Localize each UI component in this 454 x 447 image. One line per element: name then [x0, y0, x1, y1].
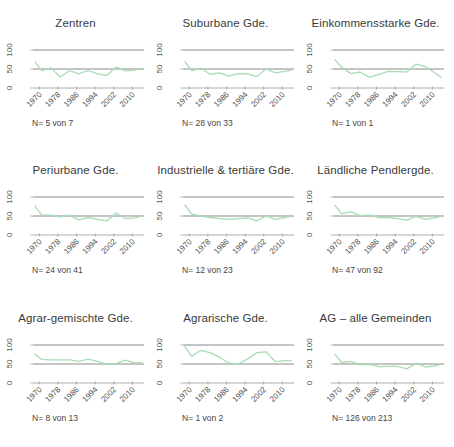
x-tick-label: 2010 [268, 385, 287, 404]
y-tick-label: 50 [5, 211, 14, 220]
x-tick-label: 1978 [193, 237, 212, 256]
x-tick-label: 1986 [212, 90, 231, 109]
x-tick-label: 2010 [118, 385, 137, 404]
x-tick-label: 2002 [399, 385, 418, 404]
x-tick-label: 2002 [99, 237, 118, 256]
x-tick-label: 1994 [81, 385, 100, 404]
line-plot: 197019781986199420022010050100 [300, 0, 451, 118]
chart-panel: Zentren197019781986199420022010050100N= … [0, 0, 151, 149]
y-tick-label: 0 [155, 380, 164, 385]
x-tick-label: 2002 [399, 237, 418, 256]
chart-panel: Industrielle & tertiäre Gde.197019781986… [150, 147, 301, 296]
y-tick-label: 0 [5, 232, 14, 237]
x-tick-label: 1978 [43, 385, 62, 404]
data-line [185, 346, 292, 364]
x-tick-label: 1978 [193, 385, 212, 404]
line-plot: 197019781986199420022010050100 [300, 295, 451, 413]
data-line [335, 354, 442, 369]
x-tick-label: 1994 [81, 237, 100, 256]
y-tick-label: 50 [5, 359, 14, 368]
chart-panel: AG – alle Gemeinden197019781986199420022… [300, 295, 451, 444]
x-tick-label: 1986 [62, 237, 81, 256]
line-plot: 197019781986199420022010050100 [150, 0, 301, 118]
x-tick-label: 1978 [343, 385, 362, 404]
y-tick-label: 50 [155, 64, 164, 73]
y-tick-label: 50 [305, 64, 314, 73]
x-tick-label: 2002 [99, 90, 118, 109]
x-tick-label: 1994 [381, 385, 400, 404]
x-tick-label: 1986 [362, 385, 381, 404]
x-tick-label: 1970 [25, 90, 44, 109]
data-line [185, 205, 292, 221]
y-tick-label: 0 [5, 85, 14, 90]
y-tick-label: 100 [305, 338, 314, 352]
x-tick-label: 2002 [249, 237, 268, 256]
x-tick-label: 1970 [325, 237, 344, 256]
x-tick-label: 1994 [381, 90, 400, 109]
y-tick-label: 0 [5, 380, 14, 385]
chart-panel: Suburbane Gde.19701978198619942002201005… [150, 0, 301, 149]
x-tick-label: 2010 [268, 237, 287, 256]
line-plot: 197019781986199420022010050100 [150, 147, 301, 265]
data-line [335, 205, 442, 220]
y-tick-label: 50 [305, 359, 314, 368]
line-plot: 197019781986199420022010050100 [300, 147, 451, 265]
x-tick-label: 2002 [99, 385, 118, 404]
x-tick-label: 1994 [381, 237, 400, 256]
y-tick-label: 0 [305, 380, 314, 385]
x-tick-label: 1970 [25, 385, 44, 404]
x-tick-label: 1978 [43, 237, 62, 256]
y-tick-label: 0 [155, 85, 164, 90]
x-tick-label: 1986 [362, 237, 381, 256]
chart-panel: Periurbane Gde.1970197819861994200220100… [0, 147, 151, 296]
x-tick-label: 2010 [268, 90, 287, 109]
y-tick-label: 0 [305, 85, 314, 90]
y-tick-label: 50 [155, 359, 164, 368]
y-tick-label: 50 [155, 211, 164, 220]
x-tick-label: 1978 [43, 90, 62, 109]
x-tick-label: 2010 [118, 90, 137, 109]
line-plot: 197019781986199420022010050100 [0, 295, 151, 413]
x-tick-label: 2002 [399, 90, 418, 109]
y-tick-label: 100 [155, 190, 164, 204]
x-tick-label: 2010 [118, 237, 137, 256]
x-tick-label: 1978 [343, 90, 362, 109]
line-plot: 197019781986199420022010050100 [150, 295, 301, 413]
x-tick-label: 2002 [249, 90, 268, 109]
sample-size-label: N= 1 von 2 [182, 413, 223, 423]
sample-size-label: N= 5 von 7 [32, 118, 73, 128]
sample-size-label: N= 12 von 23 [182, 265, 233, 275]
x-tick-label: 1986 [212, 385, 231, 404]
y-tick-label: 100 [155, 43, 164, 57]
y-tick-label: 50 [305, 211, 314, 220]
y-tick-label: 100 [5, 43, 14, 57]
y-tick-label: 100 [5, 190, 14, 204]
x-tick-label: 2010 [418, 385, 437, 404]
x-tick-label: 1978 [343, 237, 362, 256]
y-tick-label: 100 [155, 338, 164, 352]
x-tick-label: 1986 [62, 90, 81, 109]
chart-panel: Agrarische Gde.1970197819861994200220100… [150, 295, 301, 444]
y-tick-label: 0 [155, 232, 164, 237]
y-tick-label: 100 [305, 190, 314, 204]
x-tick-label: 1994 [231, 237, 250, 256]
x-tick-label: 1986 [362, 90, 381, 109]
x-tick-label: 2010 [418, 237, 437, 256]
x-tick-label: 1970 [175, 237, 194, 256]
x-tick-label: 1986 [62, 385, 81, 404]
x-tick-label: 1994 [81, 90, 100, 109]
y-tick-label: 100 [305, 43, 314, 57]
x-tick-label: 2010 [418, 90, 437, 109]
data-line [35, 206, 142, 221]
y-tick-label: 50 [5, 64, 14, 73]
line-plot: 197019781986199420022010050100 [0, 147, 151, 265]
chart-panel: Ländliche Pendlergde.1970197819861994200… [300, 147, 451, 296]
x-tick-label: 1994 [231, 90, 250, 109]
x-tick-label: 1994 [231, 385, 250, 404]
x-tick-label: 1970 [325, 90, 344, 109]
sample-size-label: N= 47 von 92 [332, 265, 383, 275]
line-plot: 197019781986199420022010050100 [0, 0, 151, 118]
sample-size-label: N= 8 von 13 [32, 413, 78, 423]
sample-size-label: N= 28 von 33 [182, 118, 233, 128]
sample-size-label: N= 1 von 1 [332, 118, 373, 128]
